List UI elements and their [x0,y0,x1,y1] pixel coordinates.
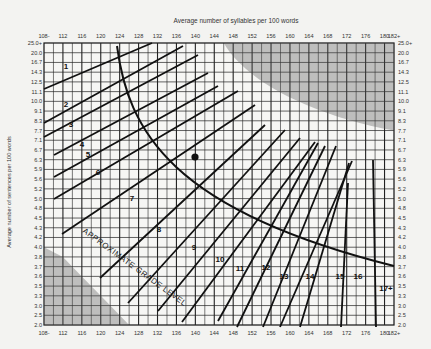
x-tick-label-top: 136 [172,33,181,39]
grade-label: 7 [130,194,135,203]
y-tick-label-right: 4.2 [398,234,406,240]
y-tick-label-right: 3.6 [398,273,406,279]
x-tick-label-top: 152 [247,33,256,39]
y-tick-label-left: 6.3 [34,157,42,163]
x-axis-top-ticks: 108-112116120124128132136140144148152156… [38,33,400,39]
chart-title: Average number of syllables per 100 word… [174,17,300,25]
y-tick-label-right: 20.0 [398,50,409,56]
y-tick-label-right: 6.7 [398,147,406,153]
x-tick-label-bottom: 120 [96,330,105,336]
y-tick-label-right: 3.8 [398,254,406,260]
grade-label: 5 [86,150,91,159]
y-tick-label-left: 14.3 [31,69,42,75]
y-tick-label-right: 6.3 [398,157,406,163]
y-tick-label-right: 3.7 [398,264,406,270]
x-tick-label-bottom: 136 [172,330,181,336]
grade-label: 13 [280,272,289,281]
y-tick-label-right: 10.0 [398,98,409,104]
x-axis-bottom-ticks: 108-112116120124128132136140144148152156… [38,330,400,336]
grade-label: 14 [306,272,315,281]
x-tick-label-bottom: 176 [361,330,370,336]
y-tick-label-left: 25.0+ [28,40,42,46]
x-tick-label-bottom: 140 [191,330,200,336]
y-tick-label-left: 4.3 [34,225,42,231]
grade-label: 10 [216,255,225,264]
x-tick-label-top: 140 [191,33,200,39]
y-tick-label-left: 12.5 [31,79,42,85]
x-tick-label-bottom: 108- [38,330,49,336]
y-tick-label-left: 3.7 [34,264,42,270]
y-tick-label-right: 7.7 [398,128,406,134]
x-tick-label-bottom: 160 [285,330,294,336]
y-tick-label-right: 4.0 [398,244,406,250]
y-tick-label-left: 3.6 [34,273,42,279]
x-tick-label-bottom: 152 [247,330,256,336]
y-tick-label-left: 20.0 [31,50,42,56]
x-tick-label-bottom: 168 [323,330,332,336]
x-tick-label-top: 156 [266,33,275,39]
x-tick-label-bottom: 156 [266,330,275,336]
y-tick-label-right: 5.6 [398,176,406,182]
y-tick-label-left: 4.0 [34,244,42,250]
x-tick-label-bottom: 112 [58,330,67,336]
grade-label: 3 [69,120,74,129]
x-tick-label-top: 160 [285,33,294,39]
x-tick-label-top: 112 [58,33,67,39]
x-tick-label-top: 108- [38,33,49,39]
y-tick-label-left: 9.1 [34,108,42,114]
grade-label: 16 [354,272,363,281]
grade-label: 9 [192,243,197,252]
y-tick-label-left: 8.3 [34,118,42,124]
grade-label: 4 [80,140,85,149]
y-axis-label: Average number of sentences per 100 word… [6,136,12,248]
grade-label: 6 [96,168,101,177]
y-tick-label-left: 2.0 [34,322,42,328]
grade-label: 1 [64,62,69,71]
x-tick-label-bottom: 148 [229,330,238,336]
y-tick-label-right: 11.1 [398,89,408,95]
y-tick-label-right: 5.2 [398,186,406,192]
y-tick-label-left: 5.9 [34,166,42,172]
y-tick-label-left: 11.1 [32,89,42,95]
y-tick-label-right: 5.0 [398,196,406,202]
y-tick-label-right: 3.3 [398,293,406,299]
y-tick-label-left: 10.0 [31,98,42,104]
x-tick-label-bottom: 116 [77,330,86,336]
y-tick-label-left: 3.3 [34,293,42,299]
y-axis-left-ticks: 25.0+20.016.714.312.511.110.09.18.37.77.… [28,40,42,328]
x-tick-label-top: 176 [361,33,370,39]
x-tick-label-bottom: 164 [304,330,313,336]
y-tick-label-right: 12.5 [398,79,409,85]
y-tick-label-left: 4.5 [34,215,42,221]
y-tick-label-left: 16.7 [31,59,42,65]
y-tick-label-right: 5.9 [398,166,406,172]
y-tick-label-right: 25.0+ [398,40,412,46]
y-tick-label-right: 16.7 [398,59,409,65]
x-tick-label-top: 172 [342,33,351,39]
y-axis-right-ticks: 25.0+20.016.714.312.511.110.09.18.37.77.… [398,40,412,328]
x-tick-label-bottom: 124 [115,330,124,336]
x-tick-label-top: 132 [153,33,162,39]
x-tick-label-top: 182+ [388,33,401,39]
x-tick-label-top: 124 [115,33,124,39]
y-tick-label-left: 3.8 [34,254,42,260]
y-tick-label-left: 6.7 [34,147,42,153]
grade-label: 17+ [379,284,393,293]
x-tick-label-top: 116 [77,33,86,39]
sample-point [191,153,198,160]
x-tick-label-bottom: 128 [134,330,143,336]
y-tick-label-left: 5.2 [34,186,42,192]
grade-label: 11 [236,264,245,273]
x-tick-label-top: 120 [96,33,105,39]
y-tick-label-left: 4.2 [34,234,42,240]
x-tick-label-top: 144 [210,33,219,39]
y-tick-label-right: 3.5 [398,283,406,289]
x-tick-label-top: 148 [229,33,238,39]
x-tick-label-bottom: 132 [153,330,162,336]
x-tick-label-bottom: 182+ [388,330,401,336]
grade-label: 8 [157,225,162,234]
y-tick-label-right: 7.1 [398,137,406,143]
y-tick-label-right: 14.3 [398,69,409,75]
y-tick-label-left: 7.7 [34,128,42,134]
x-tick-label-bottom: 172 [342,330,351,336]
